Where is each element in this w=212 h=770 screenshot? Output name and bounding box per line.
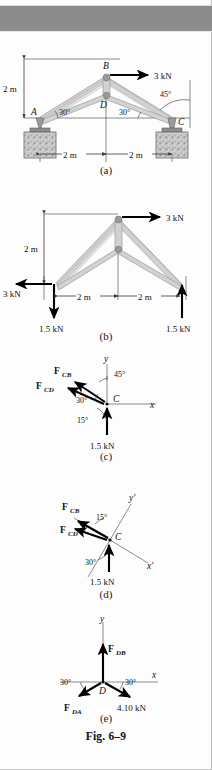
force-cb-symbol-c: F [54, 366, 60, 376]
force-cd-c: F CD [36, 381, 104, 404]
dimension-span-left-b: 2 m [58, 289, 118, 302]
figure-d-caption: (d) [0, 588, 212, 600]
dimension-height-a: 2 m [3, 59, 24, 118]
joint-c-label-c: C [113, 394, 120, 404]
joint-c-label-d: C [115, 532, 122, 542]
dimension-span-right-b: 2 m [118, 289, 180, 302]
force-cd-subscript-c: CD [44, 386, 54, 394]
dimension-height-a-label: 2 m [3, 84, 17, 94]
figure-c-caption: (c) [0, 450, 212, 462]
applied-load-b-arrow: 3 kN [110, 71, 172, 81]
joint-d-label: D [99, 100, 107, 110]
axis-y-label-c: y [103, 354, 109, 364]
angle-45-c-label: 45° [114, 370, 125, 379]
dimension-span-right-a-label: 2 m [129, 150, 143, 160]
figure-number-caption: Fig. 6–9 [0, 730, 212, 742]
force-cb-subscript-d: CB [70, 507, 80, 515]
reaction-d-label: 1.5 kN [90, 577, 115, 587]
force-db-symbol-e: F [108, 644, 114, 654]
axes-c: y x [103, 354, 156, 410]
axis-x-label-c: x [149, 400, 155, 410]
angle-15-d-label: 15° [96, 513, 107, 522]
figure-a: 2 m [0, 32, 212, 182]
angle-at-a-label: 30° [59, 108, 70, 117]
applied-load-top-b-label: 3 kN [166, 213, 184, 223]
joint-c-label: C [178, 117, 185, 127]
force-cd-symbol-c: F [36, 381, 42, 391]
reaction-c: 1.5 kN [90, 408, 115, 451]
reaction-ay-b: 1.5 kN [39, 284, 64, 334]
reaction-ax-b: 3 kN [3, 284, 52, 299]
joint-c-dot-d [108, 538, 111, 541]
axis-y-label-e: y [99, 614, 105, 624]
angle-right-e: 30° [120, 678, 136, 689]
dimension-height-b: 2 m [24, 214, 44, 284]
force-cb-subscript-c: CB [62, 371, 72, 379]
axis-xprime-label-d: x′ [146, 561, 154, 571]
figure-e: y x D F DB F DA 4.10 kN [0, 614, 212, 734]
axis-x-label-e: x [151, 670, 157, 680]
axis-yprime-label-d: y′ [128, 493, 136, 503]
angle-15-c-label: 15° [77, 416, 88, 425]
figure-a-caption: (a) [0, 164, 212, 176]
angle-at-d-right-label: 30° [119, 108, 130, 117]
figure-d: y′ x′ C F CB F CD 1.5 kN [0, 484, 212, 604]
angle-right-e-label: 30° [125, 678, 136, 687]
force-cb-symbol-d: F [62, 502, 68, 512]
angle-15-d: 15° [95, 513, 107, 524]
dimension-height-b-label: 2 m [24, 244, 38, 254]
reaction-ax-b-label: 3 kN [3, 289, 21, 299]
joint-c-dot [105, 402, 108, 405]
angle-15-c: 15° [77, 408, 107, 425]
angle-45-c: 45° [99, 370, 125, 382]
angle-30-c-label: 30° [76, 396, 87, 405]
applied-load-b-label: 3 kN [154, 71, 172, 81]
dimension-span-left-a-label: 2 m [63, 150, 77, 160]
joint-a-label: A [30, 107, 37, 117]
support-a [24, 118, 56, 158]
angle-left-e: 30° [60, 678, 84, 689]
applied-load-top-b: 3 kN [122, 213, 184, 223]
force-db-subscript-e: DB [115, 649, 126, 657]
known-force-e: 4.10 kN [105, 683, 147, 713]
page-header-band [0, 5, 212, 32]
textbook-page: 2 m [0, 0, 212, 770]
truss-members-b [56, 216, 183, 290]
figure-c: y x C F CB F CD 1.5 kN [0, 352, 212, 464]
angle-30-d-label: 30° [85, 558, 96, 567]
joint-d-label-e: D [98, 686, 106, 696]
force-cd-subscript-d: CD [68, 530, 78, 538]
angle-at-c: 45° [160, 90, 190, 110]
reaction-cy-b: 1.5 kN [166, 285, 191, 334]
figure-b: 2 m 3 kN 3 kN [0, 196, 212, 344]
dimension-span-left-b-label: 2 m [77, 292, 91, 302]
force-cd-symbol-d: F [60, 525, 66, 535]
angle-at-c-label: 45° [160, 90, 171, 99]
figure-b-caption: (b) [0, 330, 212, 342]
angle-30-d: 30° [85, 554, 107, 567]
angle-left-e-label: 30° [60, 678, 71, 687]
figure-e-caption: (e) [0, 712, 212, 724]
dimension-span-right-b-label: 2 m [138, 292, 152, 302]
force-db-e: F DB [103, 644, 126, 682]
joint-b-label: B [103, 61, 109, 71]
